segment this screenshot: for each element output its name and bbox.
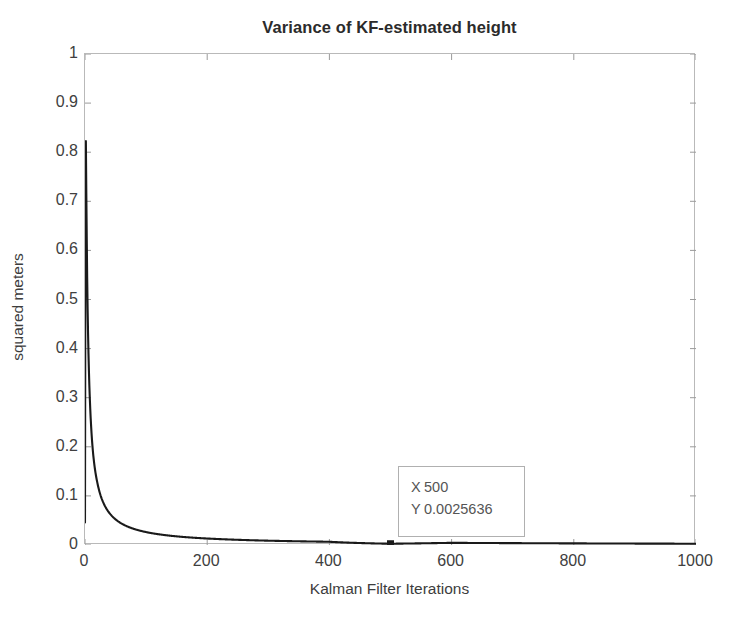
y-tick-label: 0.2 (34, 437, 78, 455)
axis-tick-marks (85, 54, 696, 545)
y-tick-label: 0.9 (34, 93, 78, 111)
datatip-box[interactable]: X500 Y0.0025636 (398, 466, 525, 537)
y-axis-label: squared meters (9, 227, 27, 387)
x-tick-label: 400 (315, 552, 342, 570)
x-tick-label: 0 (80, 552, 89, 570)
x-tick-label: 600 (437, 552, 464, 570)
x-axis-label: Kalman Filter Iterations (84, 580, 695, 598)
datatip-y-row: Y0.0025636 (411, 498, 524, 520)
y-tick-label: 0.7 (34, 191, 78, 209)
datatip-x-row: X500 (411, 476, 524, 498)
x-tick-label: 1000 (677, 552, 713, 570)
datatip-x-label: X (411, 476, 424, 498)
figure-canvas: Variance of KF-estimated height 00.10.20… (0, 0, 744, 629)
chart-title: Variance of KF-estimated height (84, 18, 695, 37)
datatip-y-label: Y (411, 498, 424, 520)
y-tick-label: 0.3 (34, 388, 78, 406)
datatip-y-value: 0.0025636 (424, 501, 493, 517)
x-tick-label: 200 (193, 552, 220, 570)
y-tick-label: 0.4 (34, 339, 78, 357)
y-tick-label: 1 (34, 44, 78, 62)
y-axis-tick-labels: 00.10.20.30.40.50.60.70.80.91 (28, 0, 78, 629)
data-series-line (85, 141, 696, 544)
y-tick-label: 0 (34, 535, 78, 553)
y-tick-label: 0.6 (34, 240, 78, 258)
y-tick-label: 0.1 (34, 486, 78, 504)
y-tick-label: 0.5 (34, 290, 78, 308)
plot-area (84, 53, 695, 544)
plot-svg (85, 54, 696, 545)
y-tick-label: 0.8 (34, 142, 78, 160)
x-tick-label: 800 (559, 552, 586, 570)
datatip-x-value: 500 (424, 479, 448, 495)
datatip-marker[interactable] (387, 540, 394, 545)
